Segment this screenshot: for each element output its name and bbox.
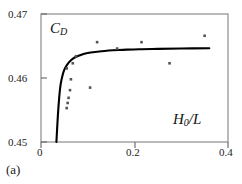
- y-axis-title-subscript: D: [60, 26, 67, 37]
- x-tick-label-0-2: 0.2: [126, 147, 140, 158]
- scatter-point: [69, 89, 72, 92]
- x-tick-label-0: 0: [37, 147, 43, 158]
- scatter-point: [66, 102, 69, 105]
- y-tick-label-0-45: 0.45: [8, 137, 27, 148]
- x-axis-title-tail: /L: [189, 111, 202, 127]
- scatter-point: [203, 34, 206, 37]
- x-axis-title: H0/L: [173, 111, 201, 128]
- scatter-point: [65, 67, 68, 70]
- y-tick-label-0-46: 0.46: [8, 73, 27, 84]
- scatter-point: [70, 78, 73, 81]
- y-axis-title: CD: [50, 20, 67, 37]
- x-axis-title-symbol: H: [173, 111, 184, 127]
- figure-panel-a: 0.47 0.46 0.45 0 0.2 0.4 CD H0/L (a): [0, 0, 242, 184]
- scatter-point: [75, 55, 78, 58]
- scatter-point: [116, 47, 119, 50]
- x-tick-label-0-4: 0.4: [219, 147, 233, 158]
- scatter-point: [67, 97, 70, 100]
- y-tick-label-0-47: 0.47: [8, 9, 27, 20]
- y-axis-title-symbol: C: [50, 20, 60, 36]
- scatter-point: [65, 107, 68, 110]
- panel-label: (a): [6, 162, 20, 178]
- scatter-point: [140, 41, 143, 44]
- scatter-point: [89, 86, 92, 89]
- scatter-point: [71, 62, 74, 65]
- scatter-point: [168, 62, 171, 65]
- scatter-point: [96, 41, 99, 44]
